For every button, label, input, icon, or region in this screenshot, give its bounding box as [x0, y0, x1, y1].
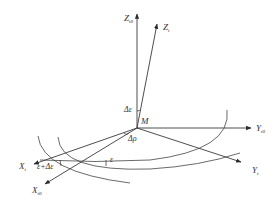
y-t0-label: Yt0: [256, 124, 265, 134]
x-t-axis: [34, 128, 137, 164]
y-t0-sub: t0: [261, 129, 265, 134]
x-t-label: Xt: [19, 162, 26, 172]
x-t-sub: t: [25, 167, 26, 172]
arc-left: [38, 136, 130, 183]
y-t-label: Yt: [252, 166, 258, 176]
z-t-label: Zt: [163, 23, 169, 33]
z-t0-sub: t0: [129, 19, 133, 24]
delta-epsilon-label: Δε: [124, 106, 132, 114]
z-t-sub: t: [168, 28, 169, 33]
delta-rho-label: Δρ: [128, 135, 137, 143]
origin-label: M: [141, 117, 149, 126]
y-t-sub: t: [257, 171, 258, 176]
diagram-canvas: [0, 0, 277, 208]
z-t0-label: Zt0: [124, 14, 133, 24]
x-t0-label: Xt0: [32, 186, 41, 196]
z-t-axis: [137, 24, 157, 128]
epsilon-plus-delta-label: ε+Δε: [37, 163, 53, 171]
epsilon-label: ε: [110, 156, 113, 164]
x-t0-sub: t0: [38, 191, 42, 196]
y-t-axis: [137, 128, 241, 162]
